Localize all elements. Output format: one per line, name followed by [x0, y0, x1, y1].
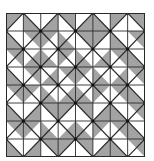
vertex-dot [39, 29, 42, 32]
vertex-dot [126, 83, 129, 86]
vertex-dot [91, 83, 94, 86]
vertex-dot [109, 101, 112, 104]
vertex-dot [109, 65, 112, 68]
vertex-dot [126, 119, 129, 122]
triangle-tiling-diagram [6, 13, 145, 157]
vertex-dot [109, 29, 112, 32]
vertex-dot [57, 119, 60, 122]
vertex-dot [109, 137, 112, 140]
vertex-dot [22, 47, 25, 50]
vertex-dot [22, 119, 25, 122]
vertex-dot [74, 65, 77, 68]
tiling-svg [6, 13, 145, 157]
vertex-dot [74, 137, 77, 140]
vertex-dot [39, 137, 42, 140]
vertex-dot [91, 47, 94, 50]
vertex-dot [57, 47, 60, 50]
vertex-dot [39, 101, 42, 104]
vertex-dot [74, 29, 77, 32]
vertex-dot [57, 83, 60, 86]
vertex-dot [91, 119, 94, 122]
vertex-dot [74, 101, 77, 104]
vertex-dot [39, 65, 42, 68]
vertex-dot [22, 83, 25, 86]
vertex-dot [126, 47, 129, 50]
